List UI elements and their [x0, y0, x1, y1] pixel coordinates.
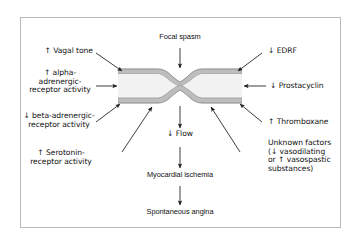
- figure-root: Focal spasm ↓ Flow Myocardial ischemia S…: [0, 0, 360, 252]
- label-focal-spasm: Focal spasm: [140, 33, 220, 42]
- label-alpha-adrenergic-receptor-activity: ↑ alpha- adrenergic- receptor activity: [26, 69, 94, 95]
- label-edrf: ↓ EDRF: [268, 47, 340, 56]
- label-flow: ↓ Flow: [146, 130, 214, 139]
- label-myocardial-ischemia: Myocardial ischemia: [126, 171, 234, 180]
- label-unknown-factors: Unknown factors (↓ vasodilating or ↑ vas…: [268, 139, 344, 173]
- coronary-artery-segment: [118, 68, 242, 104]
- label-serotonin-receptor-activity: ↑ Serotonin- receptor activity: [25, 149, 97, 166]
- vessel-svg: [118, 68, 242, 104]
- label-prostacyclin: ↓ Prostacyclin: [270, 82, 342, 91]
- label-spontaneous-angina: Spontaneous angina: [126, 208, 234, 217]
- label-beta-adrenergic-receptor-activity: ↓ beta-adrenergic- receptor activity: [22, 112, 96, 129]
- label-thromboxane: ↑ Thromboxane: [268, 118, 342, 127]
- label-vagal-tone: ↑ Vagal tone: [22, 47, 93, 56]
